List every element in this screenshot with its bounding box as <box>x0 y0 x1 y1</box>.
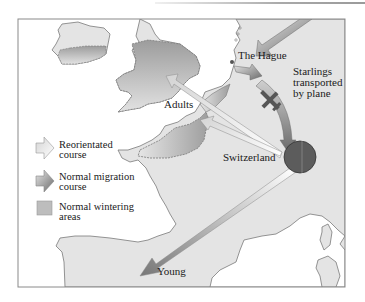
label-adults: Adults <box>164 99 193 110</box>
label-by-plane: by plane <box>293 88 331 99</box>
label-young: Young <box>157 266 186 277</box>
legend-normal-migration: Normal migration course <box>59 172 149 192</box>
legend-reoriented: Reorientated course <box>59 140 149 160</box>
label-switzerland: Switzerland <box>223 152 276 163</box>
migration-map <box>0 0 365 302</box>
gray-square-icon <box>37 201 52 215</box>
switzerland-circle <box>284 141 316 173</box>
label-the-hague: The Hague <box>238 50 287 61</box>
the-hague-marker <box>230 60 234 64</box>
legend-wintering-areas: Normal wintering areas <box>59 202 149 222</box>
